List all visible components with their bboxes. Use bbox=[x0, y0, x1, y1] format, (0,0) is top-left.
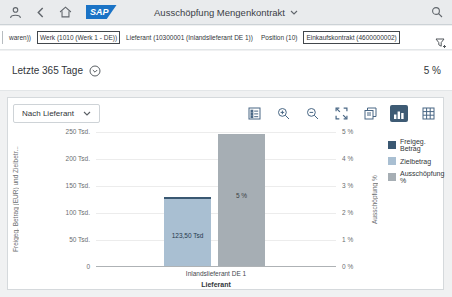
left-axis-title: Freigeg. Betrag (EUR) und Zielbetr... bbox=[11, 132, 21, 267]
right-axis-title: Ausschöpfung % bbox=[370, 132, 380, 267]
legend-item-freigeg-betrag[interactable]: Freigeg. Betrag bbox=[388, 138, 444, 152]
kpi-value: 5 % bbox=[424, 65, 441, 76]
person-icon[interactable] bbox=[9, 6, 22, 19]
legend-swatch bbox=[388, 157, 396, 165]
legend-item-zielbetrag[interactable]: Zielbetrag bbox=[388, 157, 444, 165]
left-axis-tick: 200 Tsd. bbox=[44, 155, 90, 163]
legend-toggle-icon[interactable] bbox=[245, 105, 263, 122]
bar-value-label: 5 % bbox=[218, 192, 265, 199]
home-icon[interactable] bbox=[59, 6, 72, 18]
filter-add-icon[interactable] bbox=[435, 27, 446, 49]
gridline bbox=[96, 240, 336, 241]
left-axis-tick: 100 Tsd. bbox=[44, 209, 90, 217]
search-icon[interactable] bbox=[431, 6, 443, 18]
x-axis-title: Lieferant bbox=[96, 281, 336, 288]
chevron-down-icon bbox=[290, 10, 298, 15]
right-axis-tick: 1 % bbox=[342, 236, 370, 244]
dimension-selector-button[interactable]: Nach Lieferant bbox=[13, 104, 100, 123]
dimension-selector-label: Nach Lieferant bbox=[22, 109, 74, 118]
period-label: Letzte 365 Tage bbox=[12, 65, 83, 76]
period-selector[interactable]: Letzte 365 Tage bbox=[12, 65, 101, 77]
bar-zielbetrag[interactable]: 123,50 Tsd bbox=[164, 199, 211, 266]
chart-card: Nach Lieferant bbox=[7, 97, 444, 290]
bar-ausschoepfung[interactable]: 5 % bbox=[218, 134, 265, 266]
filter-chip-position[interactable]: Position (10) bbox=[259, 31, 300, 44]
legend-label: Freigeg. Betrag bbox=[400, 138, 444, 152]
fullscreen-icon[interactable] bbox=[332, 105, 350, 122]
chart-toolbar: Nach Lieferant bbox=[13, 103, 437, 124]
right-axis-tick: 4 % bbox=[342, 155, 370, 163]
zoom-in-icon[interactable] bbox=[274, 105, 292, 122]
left-axis-tick: 250 Tsd. bbox=[44, 128, 90, 136]
plot-area: 123,50 Tsd 5 % bbox=[96, 132, 336, 267]
right-axis-tick: 5 % bbox=[342, 128, 370, 136]
filter-chip-werk[interactable]: Werk (1010 (Werk 1 - DE)) bbox=[37, 31, 120, 44]
table-icon[interactable] bbox=[419, 105, 437, 122]
left-axis-tick: 150 Tsd. bbox=[44, 182, 90, 190]
left-axis-tick: 50 Tsd. bbox=[44, 236, 90, 244]
back-icon[interactable] bbox=[36, 7, 45, 18]
filter-chip-truncated[interactable]: waren)) bbox=[7, 31, 33, 44]
app-window: SAP Ausschöpfung Mengenkontrakt waren)) … bbox=[0, 0, 452, 297]
filterbar-left-divider bbox=[2, 31, 3, 44]
legend-label: Ausschöpfung % bbox=[400, 170, 444, 184]
kpi-bar: Letzte 365 Tage 5 % bbox=[0, 51, 452, 91]
category-label: Inlandslieferant DE 1 bbox=[96, 270, 336, 277]
gridline bbox=[96, 132, 336, 133]
filter-bar: waren)) Werk (1010 (Werk 1 - DE)) Liefer… bbox=[0, 26, 452, 50]
legend-swatch bbox=[388, 173, 396, 181]
shell-header: SAP Ausschöpfung Mengenkontrakt bbox=[0, 0, 452, 25]
chevron-down-icon bbox=[83, 111, 91, 116]
right-axis-tick: 2 % bbox=[342, 209, 370, 217]
gridline bbox=[96, 159, 336, 160]
legend-item-ausschoepfung[interactable]: Ausschöpfung % bbox=[388, 170, 444, 184]
gridline bbox=[96, 213, 336, 214]
filter-chip-lieferant[interactable]: Lieferant (10300001 (Inlandslieferant DE… bbox=[124, 31, 255, 44]
app-title-menu[interactable]: Ausschöpfung Mengenkontrakt bbox=[154, 0, 298, 25]
bar-chart-icon[interactable] bbox=[390, 105, 408, 122]
filter-chip-einkaufskontrakt[interactable]: Einkaufskontrakt (4600000002) bbox=[303, 31, 399, 44]
sap-logo: SAP bbox=[86, 5, 117, 19]
right-axis-tick: 3 % bbox=[342, 182, 370, 190]
legend-label: Zielbetrag bbox=[400, 158, 431, 165]
page-title: Ausschöpfung Mengenkontrakt bbox=[154, 7, 285, 18]
x-axis-line bbox=[96, 266, 336, 267]
copy-icon[interactable] bbox=[361, 105, 379, 122]
right-axis-tick: 0 % bbox=[342, 263, 370, 271]
circled-chevron-down-icon bbox=[89, 65, 101, 77]
left-axis-tick: 0 bbox=[44, 263, 90, 271]
legend-swatch bbox=[388, 141, 396, 149]
zoom-out-icon[interactable] bbox=[303, 105, 321, 122]
bar-value-label: 123,50 Tsd bbox=[164, 232, 211, 239]
gridline bbox=[96, 186, 336, 187]
chart-legend: Freigeg. Betrag Zielbetrag Ausschöpfung … bbox=[388, 138, 444, 184]
